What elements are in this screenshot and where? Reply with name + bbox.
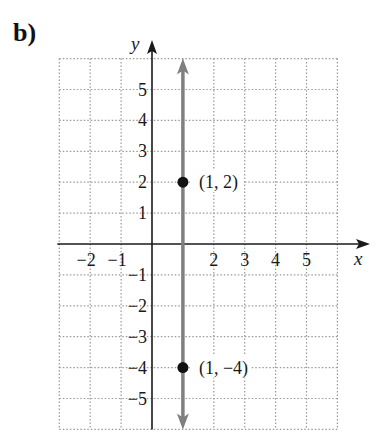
x-tick-label: 4: [271, 250, 280, 270]
y-tick-label: −3: [128, 327, 147, 347]
point-marker: [177, 177, 188, 188]
x-axis-label: x: [353, 248, 363, 269]
y-tick-label: −1: [128, 265, 147, 285]
point-label: (1, −4): [199, 358, 248, 379]
y-tick-label: 4: [138, 110, 147, 130]
y-tick-label: −4: [128, 358, 147, 378]
x-tick-label: 2: [209, 250, 218, 270]
point-marker: [177, 362, 188, 373]
y-tick-label: −5: [128, 389, 147, 409]
x-tick-label: −1: [108, 250, 127, 270]
y-tick-label: 1: [138, 203, 147, 223]
y-axis-label: y: [129, 33, 140, 54]
x-tick-label: −2: [77, 250, 96, 270]
x-tick-label: 3: [240, 250, 249, 270]
y-tick-label: 2: [138, 172, 147, 192]
x-tick-label: 5: [302, 250, 311, 270]
point-label: (1, 2): [199, 172, 238, 193]
y-tick-label: −2: [128, 296, 147, 316]
y-tick-label: 5: [138, 80, 147, 100]
coordinate-plane: xy −2−1234554321−1−2−3−4−5 (1, 2)(1, −4): [0, 0, 384, 437]
y-tick-label: 3: [138, 141, 147, 161]
